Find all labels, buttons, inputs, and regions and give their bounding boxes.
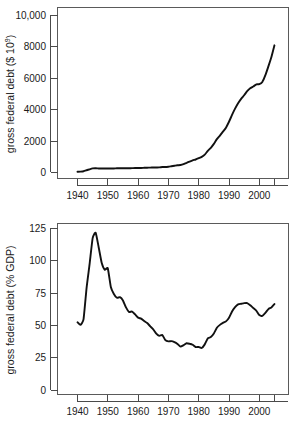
- figure-container: 10,000 8000 6000 4000 2000 0 1940 1950: [0, 0, 304, 428]
- y-axis-title: gross federal debt (% GDP): [4, 246, 16, 375]
- x-tick-label-1950: 1950: [97, 406, 120, 417]
- y-tick-label-2000: 2000: [24, 136, 47, 147]
- y-tick-label-0: 0: [40, 385, 46, 396]
- chart-panel-gross-federal-debt-dollars: 10,000 8000 6000 4000 2000 0 1940 1950: [0, 0, 304, 214]
- top-chart-svg: 10,000 8000 6000 4000 2000 0 1940 1950: [0, 0, 304, 214]
- chart-panel-gross-federal-debt-pct-gdp: 125 100 75 50 25 0 1940 1950 196: [0, 214, 304, 428]
- data-series-line: [78, 233, 275, 348]
- y-tick-label-10000: 10,000: [15, 10, 46, 21]
- y-tick-label-6000: 6000: [24, 73, 47, 84]
- y-axis-title-group: gross federal debt (% GDP): [4, 246, 16, 375]
- x-tick-label-1940: 1940: [66, 190, 89, 201]
- x-tick-label-1940: 1940: [66, 406, 89, 417]
- y-tick-label-4000: 4000: [24, 104, 47, 115]
- y-tick-label-25: 25: [35, 352, 47, 363]
- y-tick-label-0: 0: [40, 167, 46, 178]
- y-tick-label-100: 100: [29, 255, 46, 266]
- x-tick-label-1970: 1970: [157, 190, 180, 201]
- y-axis-top: 10,000 8000 6000 4000 2000 0: [15, 10, 57, 178]
- x-tick-label-2000: 2000: [248, 406, 271, 417]
- y-axis-title-group: gross federal debt ($ 109): [4, 35, 16, 153]
- data-series-line: [78, 45, 275, 171]
- x-tick-label-1960: 1960: [127, 190, 150, 201]
- bottom-chart-svg: 125 100 75 50 25 0 1940 1950 196: [0, 214, 304, 428]
- y-axis-title: gross federal debt ($ 109): [4, 35, 16, 153]
- x-tick-label-1950: 1950: [97, 190, 120, 201]
- x-axis-bottom: 1940 1950 1960 1970 1980 1990 2000: [66, 395, 288, 418]
- x-axis-top: 1940 1950 1960 1970 1980 1990 2000: [66, 179, 288, 202]
- y-tick-label-50: 50: [35, 320, 47, 331]
- x-tick-label-1960: 1960: [127, 406, 150, 417]
- x-tick-label-1990: 1990: [218, 406, 241, 417]
- y-axis-title-main: gross federal debt ($ 10: [4, 42, 16, 153]
- y-axis-title-suffix: ): [4, 35, 16, 39]
- x-tick-label-1970: 1970: [157, 406, 180, 417]
- y-tick-label-8000: 8000: [24, 41, 47, 52]
- x-tick-label-1980: 1980: [188, 190, 211, 201]
- y-axis-bottom: 125 100 75 50 25 0: [29, 223, 57, 396]
- plot-frame: [58, 8, 289, 179]
- y-tick-label-125: 125: [29, 223, 46, 234]
- y-tick-label-75: 75: [35, 288, 47, 299]
- x-tick-label-1980: 1980: [188, 406, 211, 417]
- x-tick-label-1990: 1990: [218, 190, 241, 201]
- x-tick-label-2000: 2000: [248, 190, 271, 201]
